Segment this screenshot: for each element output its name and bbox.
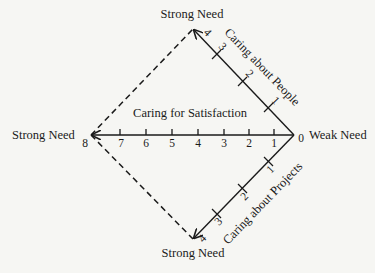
sat-tick-6: 6 xyxy=(143,137,149,149)
projects-tick-3: 3 xyxy=(212,215,225,228)
satisfaction-axis-label: Caring for Satisfaction xyxy=(133,106,248,120)
label-left-strong-need: Strong Need xyxy=(12,128,76,142)
projects-axis-label: Caring about Projects xyxy=(220,159,305,247)
label-top-strong-need: Strong Need xyxy=(161,7,225,21)
sat-tick-2: 2 xyxy=(246,137,252,149)
projects-tick-4: 4 xyxy=(196,232,209,245)
satisfaction-ticks xyxy=(120,129,274,135)
sat-tick-8: 8 xyxy=(82,137,88,149)
sat-tick-4: 4 xyxy=(195,137,201,149)
projects-tick-2: 2 xyxy=(238,190,251,203)
sat-tick-0: 0 xyxy=(298,132,304,144)
label-bottom-strong-need: Strong Need xyxy=(162,246,226,260)
sat-tick-5: 5 xyxy=(169,137,175,149)
people-tick-4: 4 xyxy=(202,26,215,39)
people-axis-label: Caring about People xyxy=(222,25,303,108)
diagram-canvas: Strong Need Strong Need Strong Need Weak… xyxy=(0,0,375,273)
label-right-weak-need: Weak Need xyxy=(309,128,367,142)
sat-tick-1: 1 xyxy=(271,137,277,149)
needs-diagram: Strong Need Strong Need Strong Need Weak… xyxy=(0,0,375,273)
projects-tick-1: 1 xyxy=(264,163,277,176)
sat-tick-3: 3 xyxy=(221,137,227,149)
people-tick-3: 3 xyxy=(217,40,230,53)
sat-tick-7: 7 xyxy=(118,137,124,149)
dashed-edge-lower-left xyxy=(91,135,193,239)
